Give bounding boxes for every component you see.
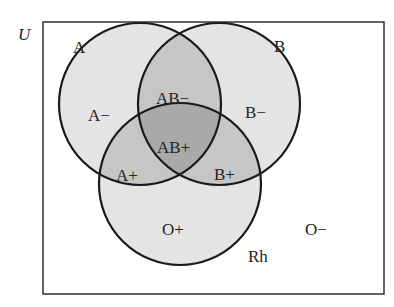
universe-label: U bbox=[18, 25, 32, 44]
region-o-neg: O− bbox=[305, 220, 327, 239]
venn-diagram: U A B Rh A− AB− B− AB+ A+ B+ O+ O− bbox=[0, 0, 394, 307]
set-rh-label: Rh bbox=[248, 247, 268, 266]
region-b-pos: B+ bbox=[214, 165, 235, 184]
region-a-neg: A− bbox=[88, 106, 110, 125]
region-o-pos: O+ bbox=[162, 220, 184, 239]
region-ab-neg: AB− bbox=[156, 89, 189, 108]
region-b-neg: B− bbox=[245, 103, 266, 122]
set-a-label: A bbox=[73, 38, 86, 57]
region-ab-pos: AB+ bbox=[157, 138, 190, 157]
set-b-label: B bbox=[274, 37, 285, 56]
region-a-pos: A+ bbox=[116, 166, 138, 185]
